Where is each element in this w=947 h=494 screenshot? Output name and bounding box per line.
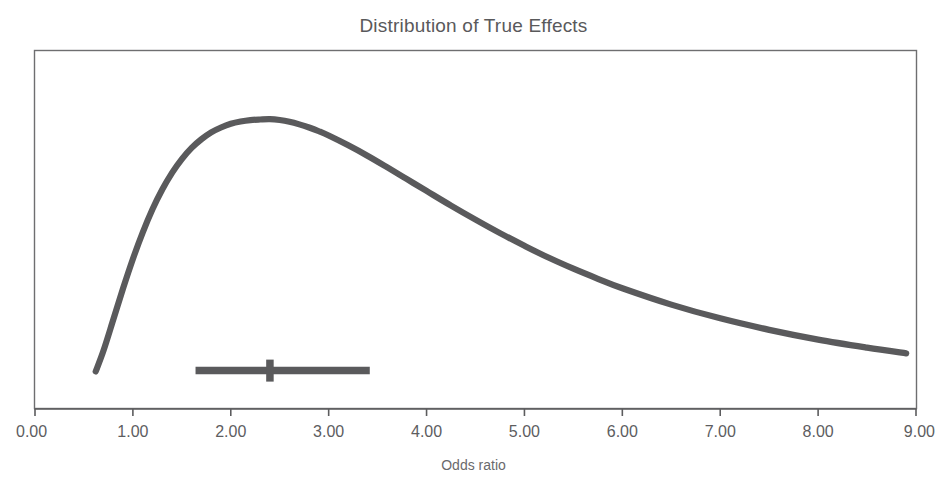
x-tick-label: 2.00 [215,423,246,440]
x-tick-label: 4.00 [411,423,442,440]
chart-figure: Distribution of True Effects 0.001.002.0… [0,0,947,494]
x-tick-label: 8.00 [803,423,834,440]
x-tick-label: 7.00 [705,423,736,440]
x-tick-label: 5.00 [509,423,540,440]
x-axis-label: Odds ratio [441,457,506,473]
plot-area-frame [35,51,917,409]
x-tick-label: 1.00 [117,423,148,440]
x-tick-label: 3.00 [313,423,344,440]
chart-title: Distribution of True Effects [359,15,587,36]
x-tick-label: 6.00 [607,423,638,440]
x-tick-label: 9.00 [904,423,935,440]
x-tick-label: 0.00 [16,423,47,440]
distribution-chart: Distribution of True Effects 0.001.002.0… [0,0,947,494]
